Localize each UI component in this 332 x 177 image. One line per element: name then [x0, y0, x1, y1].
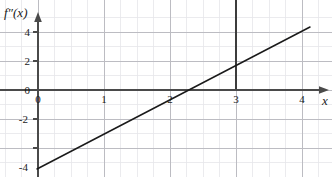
x-axis-label: x	[322, 94, 328, 107]
y-tick-label-0: 0	[10, 85, 30, 96]
y-tick-label-minus-2: -2	[8, 114, 28, 125]
y-axis-label: f″(x)	[4, 6, 27, 19]
grid-major-vertical	[38, 0, 302, 177]
x-tick-label-2: 2	[160, 94, 180, 105]
y-tick-label-4: 4	[10, 27, 30, 38]
y-axis-arrowhead	[34, 12, 42, 22]
grid-minor-vertical	[5, 0, 319, 177]
y-tick-label-2: 2	[10, 56, 30, 67]
x-tick-label-4: 4	[292, 94, 312, 105]
chart-figure: f″(x) x 4 2 0 -2 -4 0 1 2 3 4	[0, 0, 332, 177]
x-tick-label-0: 0	[28, 94, 48, 105]
x-tick-label-3: 3	[226, 94, 246, 105]
y-tick-label-minus-4: -4	[8, 162, 28, 173]
x-tick-label-1: 1	[94, 94, 114, 105]
y-tick-marks	[33, 32, 38, 148]
plot-area	[0, 0, 332, 177]
